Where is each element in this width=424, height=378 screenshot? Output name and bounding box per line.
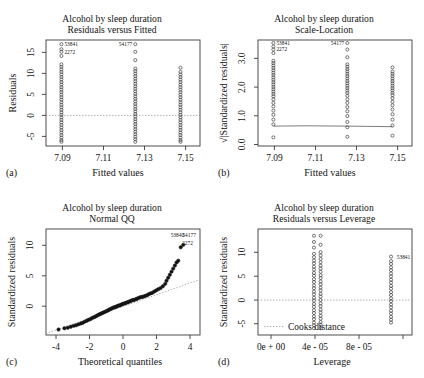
panel-b-xtick-3: 7.15 [389,153,406,163]
panel-letter-c: (c) [6,356,17,368]
panel-d-xtick-0: 0e + 00 [257,342,286,352]
data-point [346,110,349,113]
panel-c-xlabel: Theoretical quantiles [78,356,162,367]
panel-a-residuals-versus-fitted: Alcohol by sleep duration Residuals vers… [0,0,212,189]
data-point [272,41,275,44]
panel-c-subtitle: Normal QQ [89,213,135,224]
data-point [272,101,275,104]
data-point [57,328,60,331]
panel-b-title: Alcohol by sleep duration [274,13,374,24]
data-point [312,234,315,237]
panel-a-ytick-marks [42,52,46,136]
panel-letter-d: (d) [218,356,230,368]
panel-d-ytick-2: 5 [237,274,247,279]
data-point [272,45,275,48]
panel-d-subtitle: Residuals versus Leverage [273,213,375,224]
panel-c-xtick-labels: -4 -2 0 2 4 [52,342,193,352]
panel-b-xlabel: Fitted values [304,167,355,178]
diagnostic-plot-figure: Alcohol by sleep duration Residuals vers… [0,0,424,378]
point-label: 2272 [64,49,75,55]
panel-a-ytick-3: 10 [26,68,36,78]
panel-d-residuals-versus-leverage: Alcohol by sleep duration Residuals vers… [212,189,424,378]
panel-a-subtitle: Residuals versus Fitted [67,24,156,35]
panel-a-xlabel: Fitted values [92,167,143,178]
panel-a-point-annotations: 53841227254177 [64,41,132,55]
data-point [319,257,322,260]
panel-c-qq-reference-line [46,280,200,334]
panel-b-xtick-0: 7.09 [266,153,283,163]
panel-c-ytick-marks [42,245,46,306]
panel-c-ytick-2: 10 [25,240,35,250]
data-point [319,234,322,237]
data-point [391,104,394,107]
data-point [312,252,315,255]
data-point [391,66,394,69]
data-point [346,48,349,51]
data-point [60,43,63,46]
panel-d-ytick-1: 0 [237,297,247,302]
data-point [272,136,275,139]
data-point [319,261,322,264]
panel-a-xtick-1: 7.11 [95,153,111,163]
panel-b-ytick-0: 0.0 [237,138,247,150]
data-point [346,120,349,123]
data-point [177,259,180,262]
data-point [312,240,315,243]
panel-d-title: Alcohol by sleep duration [274,202,374,213]
data-point [272,52,275,55]
data-point [391,108,394,111]
point-label: 54177 [119,41,133,47]
panel-b-ytick-2: 2.0 [237,81,247,93]
data-point [272,98,275,101]
panel-d-ytick-marks [254,252,258,323]
data-point [134,43,137,46]
panel-c-point-annotations: 53840541772272 [171,232,197,246]
panel-a-xtick-2: 7.13 [136,153,153,163]
data-point [346,56,349,59]
data-point [272,113,275,116]
panel-d-ytick-labels: -5 0 5 10 [237,247,247,327]
panel-b-xtick-labels: 7.09 7.11 7.13 7.15 [266,153,406,163]
data-point [389,255,392,258]
panel-b-svg: Alcohol by sleep duration Scale-Location… [212,0,424,189]
data-point [63,327,66,330]
panel-d-cooks-distance-legend: Cooks distance [264,322,345,332]
panel-c-ytick-1: 5 [25,273,35,278]
panel-a-title: Alcohol by sleep duration [62,13,162,24]
data-point [346,41,349,44]
panel-b-ytick-3: 3.0 [237,52,247,64]
panel-b-xtick-marks [274,146,397,150]
panel-letter-b: (b) [218,167,230,179]
panel-c-ylabel: Standardized residuals [6,237,17,327]
point-label: 2272 [276,46,287,52]
panel-c-data-points [57,243,185,331]
point-label: 53841 [64,41,78,47]
data-point [312,256,315,259]
data-point [272,105,275,108]
data-point [346,98,349,101]
panel-d-xtick-marks [271,335,403,339]
data-point [346,114,349,117]
panel-c-xtick-marks [56,335,190,339]
panel-a-data-points [60,43,182,144]
data-point [391,97,394,100]
panel-b-xtick-1: 7.11 [307,153,323,163]
panel-c-title: Alcohol by sleep duration [62,202,162,213]
panel-a-xtick-3: 7.15 [177,153,194,163]
panel-a-xtick-labels: 7.09 7.11 7.13 7.15 [54,153,194,163]
data-point [272,123,275,126]
panel-b-data-points [272,41,394,139]
data-point [346,94,349,97]
data-point [391,134,394,137]
point-label: 53841 [276,40,290,46]
data-point [272,118,275,121]
panel-d-xtick-1: 4e - 05 [302,342,328,352]
panel-c-ytick-0: 0 [25,304,35,309]
panel-d-xlabel: Leverage [313,356,351,367]
panel-c-xtick-0: -4 [52,342,60,352]
panel-b-plot-frame [258,40,412,146]
panel-b-smoother-line [273,126,392,127]
panel-b-ytick-marks [254,58,258,144]
point-label: 2272 [182,240,193,246]
data-point [319,270,322,273]
